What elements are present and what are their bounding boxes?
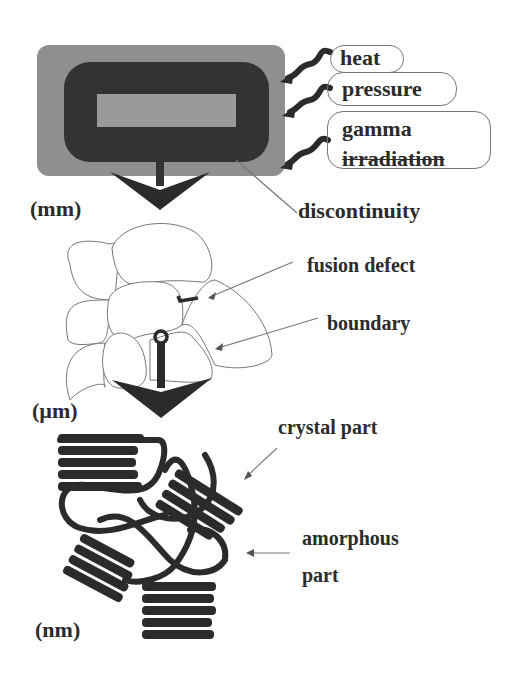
- scale-mm-label: (mm): [30, 198, 81, 220]
- grain: [66, 343, 105, 400]
- grain: [107, 282, 182, 340]
- pressure-wave-icon: [290, 87, 330, 112]
- um-grains: [66, 223, 272, 400]
- discontinuity-label: discontinuity: [298, 200, 420, 222]
- irradiation-label: irradiation: [342, 148, 445, 170]
- gamma-wave-icon: [288, 139, 328, 164]
- crystal-part-pointer: [246, 448, 277, 477]
- lamella-bottom-right: [142, 582, 216, 639]
- heat-wave-icon: [288, 51, 330, 78]
- inner-block: [97, 94, 236, 127]
- scale-um-label: (µm): [32, 400, 78, 422]
- amorphous-part-arrowhead-icon: [246, 549, 254, 557]
- gamma-label: gamma: [342, 118, 412, 140]
- fusion-defect-pointer: [210, 262, 293, 297]
- amorphous-label-line2: part: [302, 565, 339, 585]
- boundary-label: boundary: [327, 313, 410, 333]
- grain: [66, 300, 110, 345]
- amorphous-label-line1: amorphous: [302, 528, 399, 548]
- amorphous-chain: [100, 516, 225, 572]
- fusion-defect-label: fusion defect: [307, 255, 415, 275]
- scale-nm-label: (nm): [35, 619, 80, 641]
- lamella-bottom-left: [62, 533, 141, 604]
- grain: [103, 333, 147, 388]
- lamella-top-left: [58, 434, 144, 491]
- crystal-part-label: crystal part: [278, 417, 377, 437]
- pressure-label: pressure: [342, 78, 422, 100]
- grain: [112, 223, 212, 285]
- grain: [68, 241, 120, 300]
- heat-label: heat: [340, 47, 380, 69]
